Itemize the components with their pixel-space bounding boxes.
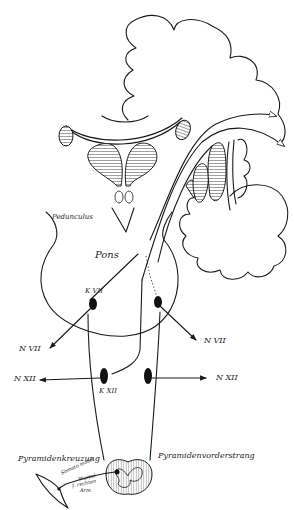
lateral-nucleus-right	[173, 118, 193, 142]
gyrus-fold	[238, 139, 250, 198]
striatum-band-3	[208, 143, 226, 201]
fiber-to-kxii	[112, 280, 142, 374]
label-k-xii: K XII	[99, 388, 117, 395]
lateral-nucleus-left	[59, 126, 73, 146]
striatum-band-2	[193, 164, 208, 203]
label-k-vii: K VII	[85, 288, 103, 295]
capsule-line-1	[227, 142, 230, 210]
arm-muscle-outline	[36, 474, 68, 508]
label-n-vii-right: N VII	[204, 337, 226, 345]
label-pyramidenvorderstrang: Pyramidenvorderstrang	[158, 452, 255, 460]
thalamus-right	[125, 143, 157, 186]
nucleus-xii-right	[144, 368, 152, 384]
diagram-canvas: Pedunculus Pons K VII N VII N VII N XII …	[0, 0, 294, 510]
thalamus-left	[88, 144, 122, 186]
label-n-xii-right: N XII	[216, 374, 238, 382]
nucleus-pair-left	[115, 191, 123, 203]
callosal-arc	[66, 118, 182, 140]
label-pedunculus: Pedunculus	[52, 214, 93, 221]
cerebral-cortex-outline	[122, 15, 285, 144]
motor-endplate	[57, 487, 60, 490]
label-arm: Arm	[80, 488, 91, 493]
pathway-drawing	[0, 0, 294, 510]
nerve-vii-right-arrow	[160, 306, 196, 340]
nucleus-pair-right	[125, 191, 133, 203]
label-n-vii-left: N VII	[19, 345, 41, 353]
nucleus-k-xii-left	[100, 368, 108, 384]
peduncle-v	[112, 208, 134, 232]
label-pons: Pons	[95, 250, 119, 260]
capsule-line-2	[233, 140, 236, 204]
spinal-cord-section	[106, 460, 152, 495]
label-n-xii-left: N XII	[14, 375, 36, 383]
medulla-right-edge	[150, 312, 160, 460]
